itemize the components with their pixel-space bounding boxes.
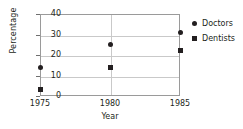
- y-tick-mark: [36, 76, 40, 77]
- y-tick-label: 20: [41, 51, 61, 59]
- y-tick-mark: [36, 14, 40, 15]
- gridline: [41, 77, 179, 78]
- scatter-chart: Percentage 010203040 197519801985 Year D…: [0, 0, 243, 129]
- y-tick-mark: [36, 96, 40, 97]
- x-axis-title: Year: [40, 112, 180, 121]
- circle-marker-icon: [192, 21, 197, 26]
- data-point-doctors: [178, 30, 183, 35]
- data-point-dentists: [178, 48, 183, 53]
- chart-legend: DoctorsDentists: [192, 18, 235, 48]
- data-point-dentists: [108, 65, 113, 70]
- legend-label: Dentists: [202, 34, 235, 43]
- legend-label: Doctors: [202, 19, 233, 28]
- data-point-dentists: [38, 87, 43, 92]
- data-point-doctors: [108, 42, 113, 47]
- x-tick-label: 1975: [20, 99, 60, 108]
- gridline-vertical: [111, 15, 112, 95]
- x-tick-label: 1985: [160, 99, 200, 108]
- y-tick-label: 40: [41, 10, 61, 18]
- y-tick-mark: [36, 55, 40, 56]
- y-tick-mark: [36, 35, 40, 36]
- data-point-doctors: [38, 65, 43, 70]
- square-marker-icon: [192, 36, 197, 41]
- gridline: [41, 36, 179, 37]
- plot-area: [40, 14, 180, 96]
- x-tick-label: 1980: [90, 99, 130, 108]
- y-tick-label: 10: [41, 72, 61, 80]
- y-axis-title: Percentage: [9, 0, 18, 67]
- legend-item-dentists: Dentists: [192, 33, 235, 44]
- y-tick-label: 30: [41, 31, 61, 39]
- gridline: [41, 56, 179, 57]
- legend-item-doctors: Doctors: [192, 18, 235, 29]
